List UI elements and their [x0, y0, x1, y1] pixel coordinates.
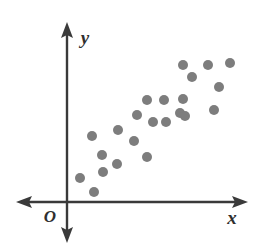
data-point-group — [75, 58, 235, 197]
data-point — [112, 159, 122, 169]
y-axis-label: y — [79, 27, 90, 48]
scatter-plot-canvas: x y O — [0, 0, 261, 247]
data-point — [132, 110, 142, 120]
data-point — [142, 152, 152, 162]
data-point — [225, 58, 235, 68]
data-point — [98, 167, 108, 177]
y-axis — [61, 22, 73, 243]
data-point — [161, 117, 171, 127]
origin-label: O — [44, 207, 56, 226]
data-point — [148, 117, 158, 127]
data-point — [209, 105, 219, 115]
data-point — [87, 131, 97, 141]
x-axis-label: x — [226, 207, 237, 228]
data-point — [113, 125, 123, 135]
data-point — [142, 95, 152, 105]
data-point — [129, 136, 139, 146]
data-point — [203, 60, 213, 70]
data-point — [214, 82, 224, 92]
data-point — [180, 111, 190, 121]
data-point — [178, 60, 188, 70]
data-point — [89, 187, 99, 197]
data-point — [97, 150, 107, 160]
data-point — [75, 173, 85, 183]
data-point — [187, 72, 197, 82]
data-point — [159, 95, 169, 105]
data-point — [178, 94, 188, 104]
scatter-plot-figure: x y O — [0, 0, 261, 247]
